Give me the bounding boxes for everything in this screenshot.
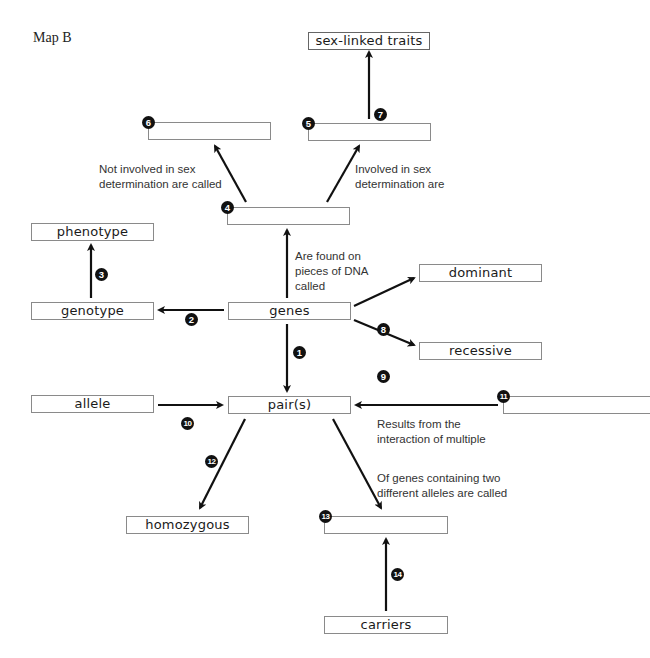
label-line: Of genes containing two xyxy=(377,471,507,486)
badge-10: 10 xyxy=(181,417,194,430)
label-results-from: Results from the interaction of multiple xyxy=(377,417,486,447)
box-phenotype: phenotype xyxy=(31,223,154,241)
box-carriers: carriers xyxy=(324,616,448,634)
label-line: Are found on xyxy=(295,249,369,264)
box-4-blank[interactable] xyxy=(227,207,350,225)
label-line: called xyxy=(295,279,369,294)
badge-5: 5 xyxy=(302,117,315,130)
label-line: Results from the xyxy=(377,417,486,432)
box-13-blank[interactable] xyxy=(324,516,448,534)
label-line: determination are xyxy=(355,177,445,192)
label-line: determination are called xyxy=(99,177,222,192)
box-genes: genes xyxy=(228,302,351,320)
badge-11: 11 xyxy=(497,390,510,403)
badge-13: 13 xyxy=(319,510,332,523)
label-involved: Involved in sex determination are xyxy=(355,162,445,192)
box-6-blank[interactable] xyxy=(148,122,271,140)
box-recessive: recessive xyxy=(419,342,542,360)
label-line: Not involved in sex xyxy=(99,162,222,177)
badge-9: 9 xyxy=(377,370,390,383)
label-of-genes: Of genes containing two different allele… xyxy=(377,471,507,501)
arrow-pairs-to-13 xyxy=(333,419,381,508)
label-found-on: Are found on pieces of DNA called xyxy=(295,249,369,294)
badge-2: 2 xyxy=(185,313,198,326)
badge-3: 3 xyxy=(95,268,108,281)
box-11-blank[interactable] xyxy=(503,396,650,414)
badge-8: 8 xyxy=(377,323,390,336)
label-line: interaction of multiple xyxy=(377,432,486,447)
badge-14: 14 xyxy=(391,568,404,581)
box-homozygous: homozygous xyxy=(126,516,249,534)
badge-4: 4 xyxy=(221,201,234,214)
label-line: Involved in sex xyxy=(355,162,445,177)
label-line: different alleles are called xyxy=(377,486,507,501)
badge-12: 12 xyxy=(205,455,218,468)
box-5-blank[interactable] xyxy=(308,123,431,141)
box-pairs: pair(s) xyxy=(228,396,351,414)
box-sex-linked-traits: sex-linked traits xyxy=(308,32,430,50)
badge-1: 1 xyxy=(293,346,306,359)
badge-6: 6 xyxy=(142,116,155,129)
badge-7: 7 xyxy=(374,108,387,121)
box-genotype: genotype xyxy=(31,302,154,320)
label-line: pieces of DNA xyxy=(295,264,369,279)
box-allele: allele xyxy=(31,395,154,413)
label-not-involved: Not involved in sex determination are ca… xyxy=(99,162,222,192)
box-dominant: dominant xyxy=(419,264,542,282)
